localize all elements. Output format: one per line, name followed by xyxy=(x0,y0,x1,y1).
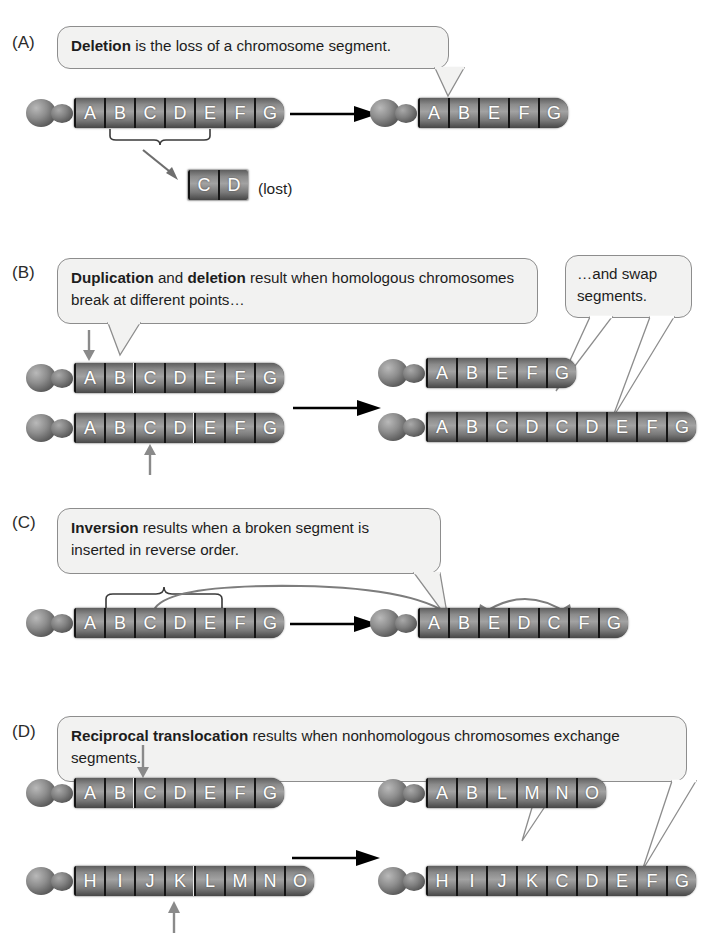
band: B xyxy=(104,608,134,638)
callout-translocation: Reciprocal translocation results when no… xyxy=(57,716,687,782)
band: A xyxy=(418,608,448,638)
band: D xyxy=(516,412,546,442)
band: E xyxy=(606,866,636,896)
callout-duplication: Duplication and deletion result when hom… xyxy=(57,258,538,324)
band: B xyxy=(448,608,478,638)
band: E xyxy=(478,98,508,128)
centromere xyxy=(26,778,78,808)
band: D xyxy=(164,778,194,808)
centromere xyxy=(26,608,78,638)
band: G xyxy=(666,866,696,896)
band: F xyxy=(636,412,666,442)
band: F xyxy=(224,363,254,393)
chromosome-a-after: A B E F G xyxy=(370,98,568,128)
band: G xyxy=(254,413,284,443)
band: G xyxy=(546,358,576,388)
break-point-arrow-top xyxy=(79,330,99,362)
band: F xyxy=(568,608,598,638)
panel-letter-b: (B) xyxy=(12,263,35,283)
band: O xyxy=(576,778,606,808)
centromere xyxy=(26,363,78,393)
band: A xyxy=(74,608,104,638)
callout-deletion-term2: deletion xyxy=(187,269,245,286)
callout-deletion-term: Deletion xyxy=(71,37,131,54)
process-arrow-d xyxy=(292,848,384,868)
callout-duplication-tail xyxy=(104,321,164,357)
band: B xyxy=(104,413,134,443)
band: C xyxy=(538,608,568,638)
chromosome-arm: A B E D C F G xyxy=(418,608,628,638)
chromosome-arm: H I J K L M N O xyxy=(74,866,314,896)
process-arrow-c xyxy=(290,614,382,634)
callout-swap-segments: …and swap segments. xyxy=(565,255,692,318)
process-arrow-a xyxy=(290,104,382,124)
panel-letter-c: (C) xyxy=(12,513,36,533)
callout-deletion-tail xyxy=(430,66,490,98)
band: J xyxy=(134,866,164,896)
band: G xyxy=(598,608,628,638)
band: E xyxy=(606,412,636,442)
band: B xyxy=(456,358,486,388)
deletion-drop-arrow xyxy=(140,148,192,186)
band: L xyxy=(486,778,516,808)
callout-swap-line1: …and swap xyxy=(577,263,680,285)
chromosome-d-before-2: H I J K L M N O xyxy=(26,866,314,896)
callout-swap-line2: segments. xyxy=(577,285,680,307)
band: C xyxy=(486,412,516,442)
band: D xyxy=(164,363,194,393)
band: E xyxy=(478,608,508,638)
band: I xyxy=(456,866,486,896)
band: E xyxy=(194,778,224,808)
band: O xyxy=(284,866,314,896)
band: A xyxy=(418,98,448,128)
lost-label: (lost) xyxy=(258,180,292,198)
band: D xyxy=(576,866,606,896)
break-point-arrow-bottom-d xyxy=(164,899,184,933)
chromosome-arm: H I J K C D E F G xyxy=(426,866,696,896)
chromosome-b-after-1: A B E F G xyxy=(378,358,576,388)
chromosome-b-before-1: A B C D E F G xyxy=(26,363,284,393)
callout-duplication-term: Duplication xyxy=(71,269,154,286)
band: N xyxy=(546,778,576,808)
band: D xyxy=(218,170,248,200)
band: G xyxy=(254,98,284,128)
centromere xyxy=(370,608,422,638)
centromere xyxy=(378,778,430,808)
band: H xyxy=(426,866,456,896)
chromosome-arm: A B C D E F G xyxy=(74,608,284,638)
chromosome-arm: A B C D C D E F G xyxy=(426,412,696,442)
band: M xyxy=(224,866,254,896)
chromosome-d-after-1: A B L M N O xyxy=(378,778,606,808)
band: C xyxy=(134,98,164,128)
band: F xyxy=(636,866,666,896)
band: K xyxy=(164,866,194,896)
band: E xyxy=(194,363,224,393)
band: E xyxy=(194,98,224,128)
chromosome-d-after-2: H I J K C D E F G xyxy=(378,866,696,896)
band: C xyxy=(546,866,576,896)
band: G xyxy=(254,778,284,808)
band: F xyxy=(224,778,254,808)
band: F xyxy=(224,413,254,443)
band: C xyxy=(134,363,164,393)
centromere xyxy=(370,98,422,128)
break-point-arrow-bottom xyxy=(140,443,160,475)
chromosome-b-after-2: A B C D C D E F G xyxy=(378,412,696,442)
band: D xyxy=(508,608,538,638)
band: A xyxy=(426,358,456,388)
band: B xyxy=(104,778,134,808)
band: M xyxy=(516,778,546,808)
centromere xyxy=(26,98,78,128)
centromere xyxy=(378,412,430,442)
centromere xyxy=(26,413,78,443)
callout-deletion-text: is the loss of a chromosome segment. xyxy=(131,37,391,54)
chromosome-arm: A B C D E F G xyxy=(74,363,284,393)
band: C xyxy=(134,608,164,638)
band: F xyxy=(224,608,254,638)
band: B xyxy=(104,363,134,393)
panel-letter-d: (D) xyxy=(12,722,36,742)
band: G xyxy=(254,363,284,393)
band: A xyxy=(426,412,456,442)
band: J xyxy=(486,866,516,896)
band: A xyxy=(74,363,104,393)
